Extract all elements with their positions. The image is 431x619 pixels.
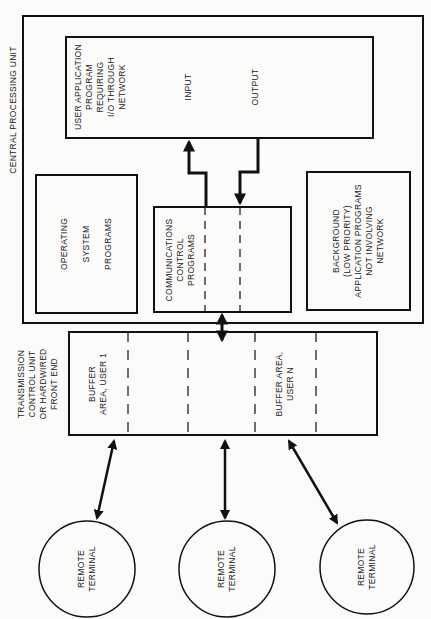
os-label: OPERATING SYSTEM PROGRAMS <box>59 218 114 270</box>
comm-control-label: COMMUNICATIONS CONTROL PROGRAMS <box>164 219 197 302</box>
terminal-2-label: REMOTE TERMINAL <box>216 546 238 591</box>
user-app-label: USER APPLICATION PROGRAM REQUIRING I/O T… <box>73 44 128 130</box>
input-label: INPUT <box>183 74 194 101</box>
output-label: OUTPUT <box>250 69 261 106</box>
cpu-label: CENTRAL PROCESSING UNIT <box>8 46 19 174</box>
output-arrow <box>240 138 258 203</box>
diagram-canvas <box>0 0 431 619</box>
buffer-user-n-label: BUFFER AREA, USER N <box>274 351 296 416</box>
buffer-user-1-label: BUFFER AREA, USER 1 <box>87 353 109 415</box>
terminal-1-arrow <box>97 441 114 518</box>
front-end-label: TRANSMISSION CONTROL UNIT OR HARDWIRED F… <box>16 348 60 419</box>
terminal-3-label: REMOTE TERMINAL <box>356 544 378 589</box>
terminal-3-arrow <box>289 441 337 523</box>
background-label: BACKGROUND (LOW PRIORITY) APPLICATION PR… <box>331 184 386 298</box>
input-arrow <box>189 142 206 207</box>
terminal-1-label: REMOTE TERMINAL <box>76 546 98 591</box>
front-end-box <box>69 332 377 435</box>
